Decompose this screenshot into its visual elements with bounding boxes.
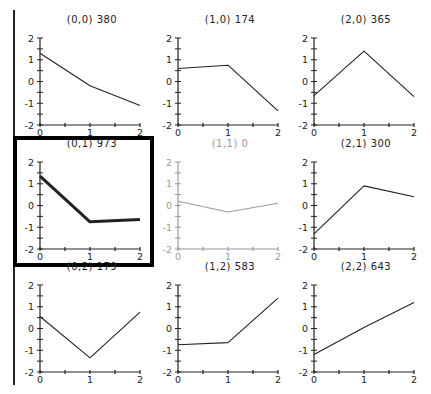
y-tick-label: 2	[302, 157, 308, 168]
y-tick-label: 2	[302, 33, 308, 44]
y-tick-label: -2	[299, 244, 308, 255]
x-tick-label: 0	[311, 251, 317, 262]
y-tick-label: 0	[166, 76, 172, 87]
panel-2-2[interactable]: (2,2) 643-2-1012012	[299, 261, 418, 385]
y-tick-label: 2	[28, 33, 34, 44]
y-tick-label: 2	[166, 280, 172, 291]
panel-2-0[interactable]: (2,0) 365-2-1012012	[299, 14, 418, 138]
data-series-line	[40, 53, 140, 105]
panel-0-0[interactable]: (0,0) 380-2-1012012	[25, 14, 144, 138]
x-tick-label: 1	[87, 127, 93, 138]
x-tick-label: 2	[137, 127, 143, 138]
y-tick-label: 0	[302, 323, 308, 334]
y-tick-label: 2	[166, 33, 172, 44]
y-tick-label: -2	[25, 244, 34, 255]
data-series-line	[314, 302, 414, 354]
x-tick-label: 1	[361, 374, 367, 385]
panel-title: (1,2) 583	[205, 261, 255, 272]
y-tick-label: 1	[166, 301, 172, 312]
y-tick-label: 0	[166, 323, 172, 334]
y-tick-label: -1	[163, 222, 172, 233]
x-tick-label: 0	[175, 251, 181, 262]
panel-title: (1,0) 174	[205, 14, 255, 25]
panel-title: (0,2) 179	[67, 261, 117, 272]
x-tick-label: 2	[411, 251, 417, 262]
y-tick-label: -1	[299, 98, 308, 109]
y-tick-label: -1	[25, 98, 34, 109]
panel-1-0[interactable]: (1,0) 174-2-1012012	[163, 14, 282, 138]
data-series-line	[314, 186, 414, 234]
y-tick-label: 0	[28, 200, 34, 211]
x-tick-label: 1	[361, 127, 367, 138]
y-tick-label: -1	[163, 98, 172, 109]
y-tick-label: -2	[299, 367, 308, 378]
panel-grid: (0,0) 380-2-1012012(1,0) 174-2-1012012(2…	[25, 14, 418, 385]
y-tick-label: -2	[163, 367, 172, 378]
panel-0-2[interactable]: (0,2) 179-2-1012012	[25, 261, 144, 385]
y-tick-label: -1	[25, 345, 34, 356]
panel-title: (2,1) 300	[341, 138, 391, 149]
y-tick-label: 1	[28, 301, 34, 312]
y-tick-label: -2	[163, 120, 172, 131]
y-tick-label: -2	[25, 367, 34, 378]
y-tick-label: 2	[302, 280, 308, 291]
y-tick-label: 2	[28, 280, 34, 291]
panel-title: (0,1) 973	[67, 138, 117, 149]
panel-title: (2,0) 365	[341, 14, 391, 25]
y-tick-label: 1	[302, 178, 308, 189]
x-tick-label: 0	[175, 127, 181, 138]
selected-panel-frame	[15, 138, 152, 265]
x-tick-label: 2	[137, 251, 143, 262]
x-tick-label: 2	[411, 374, 417, 385]
y-tick-label: -1	[163, 345, 172, 356]
x-tick-label: 0	[175, 374, 181, 385]
x-tick-label: 0	[37, 251, 43, 262]
panel-title: (2,2) 643	[341, 261, 391, 272]
y-tick-label: 1	[166, 178, 172, 189]
data-series-line	[40, 176, 140, 222]
y-tick-label: -2	[299, 120, 308, 131]
y-tick-label: -1	[25, 222, 34, 233]
y-tick-label: 2	[28, 157, 34, 168]
x-tick-label: 1	[225, 374, 231, 385]
x-tick-label: 1	[87, 374, 93, 385]
data-series-line	[314, 51, 414, 97]
y-tick-label: 1	[166, 54, 172, 65]
x-tick-label: 0	[37, 374, 43, 385]
x-tick-label: 0	[311, 374, 317, 385]
y-tick-label: 2	[166, 157, 172, 168]
y-tick-label: -1	[299, 222, 308, 233]
y-tick-label: 0	[302, 200, 308, 211]
y-tick-label: 0	[28, 323, 34, 334]
data-series-line	[178, 201, 278, 212]
data-series-line	[40, 312, 140, 358]
x-tick-label: 0	[311, 127, 317, 138]
y-tick-label: 0	[28, 76, 34, 87]
x-tick-label: 0	[37, 127, 43, 138]
y-tick-label: -1	[299, 345, 308, 356]
x-tick-label: 2	[411, 127, 417, 138]
y-tick-label: 1	[302, 301, 308, 312]
panel-1-2[interactable]: (1,2) 583-2-1012012	[163, 261, 282, 385]
panel-2-1[interactable]: (2,1) 300-2-1012012	[299, 138, 418, 262]
y-tick-label: -2	[163, 244, 172, 255]
y-tick-label: 1	[28, 178, 34, 189]
y-tick-label: 1	[28, 54, 34, 65]
panel-0-1[interactable]: (0,1) 973-2-1012012	[25, 138, 144, 262]
panel-title: (0,0) 380	[67, 14, 117, 25]
small-multiples-chart: (0,0) 380-2-1012012(1,0) 174-2-1012012(2…	[0, 0, 431, 394]
panel-title: (1,1) 0	[212, 138, 249, 149]
x-tick-label: 1	[225, 127, 231, 138]
panel-1-1[interactable]: (1,1) 0-2-1012012	[163, 138, 282, 262]
y-tick-label: 0	[302, 76, 308, 87]
y-tick-label: 1	[302, 54, 308, 65]
data-series-line	[178, 298, 278, 345]
x-tick-label: 2	[275, 374, 281, 385]
x-tick-label: 2	[275, 251, 281, 262]
x-tick-label: 2	[137, 374, 143, 385]
x-tick-label: 2	[275, 127, 281, 138]
y-tick-label: -2	[25, 120, 34, 131]
som-grid-view: (0,0) 380-2-1012012(1,0) 174-2-1012012(2…	[0, 0, 431, 394]
data-series-line	[178, 65, 278, 111]
y-tick-label: 0	[166, 200, 172, 211]
